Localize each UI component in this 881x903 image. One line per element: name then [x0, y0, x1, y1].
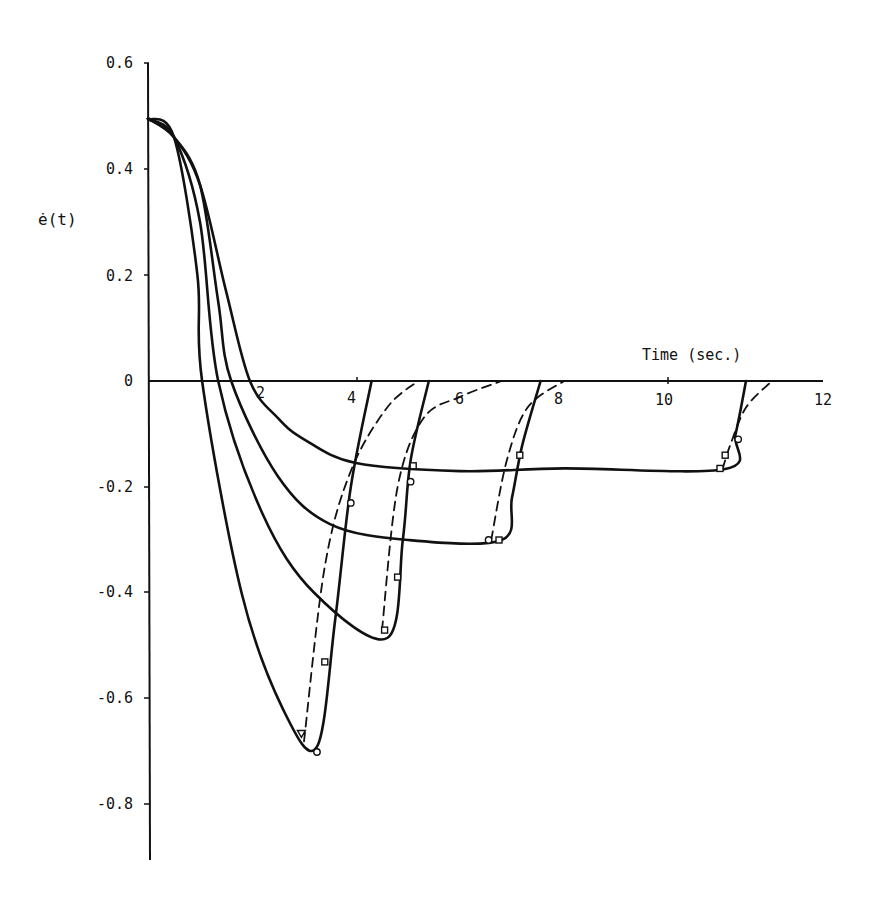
data-marker: [722, 452, 728, 458]
curve-2-line: [148, 119, 541, 544]
y-tick-label: 0: [124, 372, 133, 390]
x-tick-label: 8: [554, 390, 563, 408]
curve-3-line: [148, 119, 429, 640]
y-axis-label: ė(t): [38, 210, 77, 229]
y-axis: [148, 63, 150, 860]
data-marker: [348, 500, 354, 506]
data-marker: [517, 452, 523, 458]
data-marker: [496, 537, 502, 543]
y-tick-label: -0.8: [97, 795, 133, 813]
y-tick-label: -0.4: [97, 583, 133, 601]
data-marker: [717, 465, 723, 471]
y-tick-label: 0.6: [106, 54, 133, 72]
marker-layer: [297, 436, 741, 755]
curve-4-line: [148, 119, 372, 751]
data-marker: [410, 463, 416, 469]
curve-1-line: [148, 119, 746, 472]
series-layer: [148, 119, 772, 751]
x-axis-label: Time (sec.): [642, 346, 741, 364]
data-marker: [735, 436, 741, 442]
data-marker: [322, 659, 328, 665]
data-marker: [485, 537, 491, 543]
data-marker: [395, 574, 401, 580]
data-marker: [314, 749, 320, 755]
data-marker: [382, 627, 388, 633]
x-tick-label: 10: [655, 391, 673, 409]
curve-1-dashed-line: [723, 381, 772, 469]
x-tick-label: 12: [814, 391, 832, 409]
y-ticks: 0.6 0.4 0.2 0 -0.2 -0.4 -0.6 -0.8: [97, 54, 149, 813]
y-tick-label: 0.4: [106, 160, 133, 178]
y-tick-label: -0.2: [97, 478, 133, 496]
y-tick-label: 0.2: [106, 267, 133, 285]
data-marker: [407, 479, 413, 485]
y-tick-label: -0.6: [97, 689, 133, 707]
x-tick-label: 4: [347, 389, 356, 407]
chart: 0.6 0.4 0.2 0 -0.2 -0.4 -0.6 -0.8 2 4 6 …: [0, 0, 881, 903]
